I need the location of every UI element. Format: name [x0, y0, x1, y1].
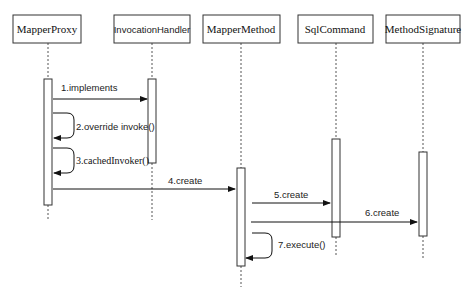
activation-mapper-method [237, 168, 245, 266]
participant-label: MapperMethod [207, 23, 276, 35]
participant-label: MapperProxy [17, 23, 78, 35]
participant-label: InvocationHandler [114, 24, 191, 35]
participant-sql-command: SqlCommand [298, 15, 373, 43]
participant-mapper-method: MapperMethod [203, 15, 280, 43]
message-1-implements: 1.implements [53, 82, 147, 99]
participant-method-signature: MethodSignature [385, 15, 461, 43]
participant-label: MethodSignature [385, 23, 461, 35]
activation-mapper-proxy [44, 79, 52, 205]
message-label: 5.create [274, 189, 308, 200]
message-label: 7.execute() [278, 239, 326, 250]
sequence-diagram: MapperProxy InvocationHandler MapperMeth… [0, 0, 472, 298]
participant-label: SqlCommand [305, 23, 366, 35]
message-4-create: 4.create [53, 175, 235, 189]
message-5-create: 5.create [252, 189, 330, 203]
message-label: 1.implements [61, 82, 118, 93]
message-7-execute: 7.execute() [246, 233, 326, 258]
message-label: 6.create [365, 207, 399, 218]
participant-invocation-handler: InvocationHandler [114, 15, 191, 43]
message-label: 2.override invoke() [76, 121, 155, 132]
participant-mapper-proxy: MapperProxy [13, 15, 81, 43]
message-3-cached-invoker: 3.cachedInvoker() [53, 148, 149, 173]
message-label: 4.create [168, 175, 202, 186]
message-label: 3.cachedInvoker() [76, 155, 149, 167]
message-2-override-invoke: 2.override invoke() [53, 113, 155, 138]
activation-method-signature [419, 152, 427, 236]
